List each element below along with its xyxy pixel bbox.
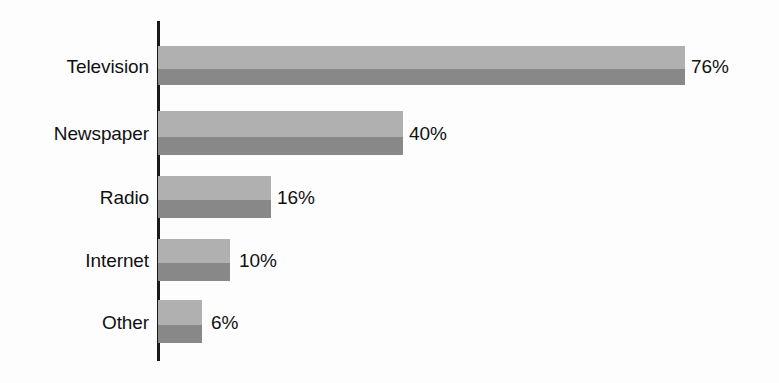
bar-segment-dark: [158, 325, 202, 343]
bar-television: [158, 46, 685, 85]
value-label-newspaper: 40%: [409, 124, 447, 143]
bar-internet: [158, 239, 230, 281]
bar-segment-light: [158, 300, 202, 325]
category-label-newspaper: Newspaper: [54, 124, 149, 143]
bar-row-radio: Radio 16%: [0, 176, 779, 218]
value-label-television: 76%: [691, 56, 729, 75]
category-label-internet: Internet: [85, 251, 149, 270]
bar-row-internet: Internet 10%: [0, 239, 779, 281]
value-label-other: 6%: [211, 312, 238, 331]
bar-segment-dark: [158, 263, 230, 281]
bar-radio: [158, 176, 271, 218]
value-label-radio: 16%: [277, 188, 315, 207]
bar-segment-light: [158, 46, 685, 69]
bar-other: [158, 300, 202, 343]
bar-row-newspaper: Newspaper 40%: [0, 111, 779, 155]
bar-segment-light: [158, 111, 403, 137]
plot-area: Television 76% Newspaper 40% Radio 16%: [0, 0, 779, 383]
bar-newspaper: [158, 111, 403, 155]
bar-segment-dark: [158, 137, 403, 155]
category-label-television: Television: [67, 56, 149, 75]
bar-row-other: Other 6%: [0, 300, 779, 343]
category-label-other: Other: [102, 312, 149, 331]
value-label-internet: 10%: [239, 251, 277, 270]
bar-segment-dark: [158, 200, 271, 218]
bar-row-television: Television 76%: [0, 46, 779, 85]
bar-segment-light: [158, 176, 271, 200]
category-label-radio: Radio: [100, 188, 149, 207]
bar-chart: Television 76% Newspaper 40% Radio 16%: [0, 0, 779, 383]
bar-segment-light: [158, 239, 230, 263]
bar-segment-dark: [158, 69, 685, 85]
